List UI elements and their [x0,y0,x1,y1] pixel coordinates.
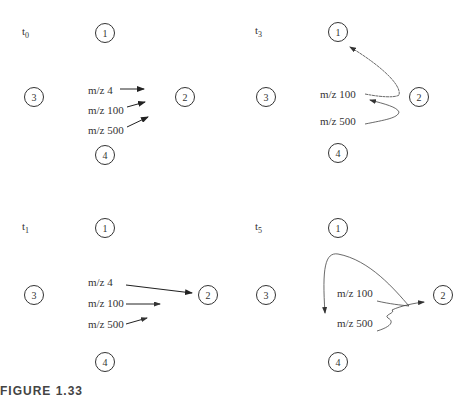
electrode-3: 3 [257,286,276,305]
time-label: t3 [255,24,262,39]
ion-label-mz100: m/z 100 [88,104,124,116]
trajectory-arrow-mz100 [127,102,145,107]
svg-text:4: 4 [103,357,108,368]
figure-caption: FIGURE 1.33 [0,385,83,397]
ion-label-mz500: m/z 500 [88,124,124,136]
ion-label-mz4: m/z 4 [88,276,113,288]
trajectory-arrow-mz500 [127,117,148,127]
svg-text:3: 3 [264,92,269,103]
trajectory-curve-mz500 [377,302,424,331]
trajectory-arrow-mz4 [126,285,192,293]
electrode-1: 1 [96,219,115,238]
electrode-2: 2 [199,286,218,305]
svg-text:2: 2 [441,290,446,301]
trajectory-arrow-mz500 [126,318,147,324]
electrode-2: 2 [434,286,453,305]
electrode-2: 2 [410,88,429,107]
svg-text:3: 3 [264,290,269,301]
electrode-2: 2 [176,88,195,107]
trajectory-curve-mz500 [365,100,399,124]
svg-text:1: 1 [336,223,341,234]
electrode-4: 4 [329,144,348,163]
svg-text:3: 3 [32,92,37,103]
electrode-1: 1 [329,23,348,42]
ion-label-mz100: m/z 100 [337,287,373,299]
svg-text:1: 1 [336,27,341,38]
electrode-3: 3 [25,88,44,107]
ion-label-mz500: m/z 500 [320,115,356,127]
electrode-3: 3 [257,88,276,107]
time-label: t0 [22,25,29,40]
ion-label-mz500: m/z 500 [88,318,124,330]
svg-text:1: 1 [103,28,108,39]
svg-text:2: 2 [183,92,188,103]
trajectory-curve-mz100 [324,254,409,313]
electrode-1: 1 [329,219,348,238]
time-label: t5 [255,220,262,235]
svg-text:4: 4 [336,357,341,368]
ion-label-mz100: m/z 100 [320,88,356,100]
electrode-4: 4 [329,353,348,372]
panel-t1: t1 1 3 2 4 m/z 4 m/z 100 m/z 500 [22,219,218,372]
panel-t0: t0 1 3 2 4 m/z 4 m/z 100 m/z 500 [22,24,195,165]
ion-label-mz4: m/z 4 [88,84,113,96]
panel-t3: t3 1 3 2 4 m/z 100 m/z 500 [255,23,429,163]
ion-label-mz100: m/z 100 [88,297,124,309]
electrode-4: 4 [96,146,115,165]
svg-text:2: 2 [417,92,422,103]
ion-label-mz500: m/z 500 [337,317,373,329]
trajectory-curve-mz100 [350,47,399,97]
electrode-1: 1 [96,24,115,43]
electrode-3: 3 [25,286,44,305]
svg-text:2: 2 [206,290,211,301]
svg-text:1: 1 [103,223,108,234]
time-label: t1 [22,220,29,235]
svg-text:4: 4 [336,148,341,159]
electrode-4: 4 [96,353,115,372]
svg-text:4: 4 [103,150,108,161]
panel-t5: t5 1 3 2 4 m/z 100 m/z 500 [255,219,453,372]
svg-text:3: 3 [32,290,37,301]
